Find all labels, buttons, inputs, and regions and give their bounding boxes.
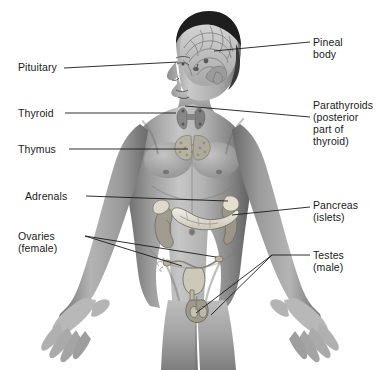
label-pancreas: Pancreas (islets)	[313, 199, 358, 223]
hand-right	[270, 298, 339, 362]
head	[167, 11, 241, 101]
ovary-right	[215, 256, 223, 262]
pineal-body-organ	[204, 59, 209, 64]
label-ovaries: Ovaries (female)	[18, 230, 57, 254]
label-thymus: Thymus	[18, 143, 56, 155]
label-adrenals: Adrenals	[25, 190, 67, 202]
label-testes: Testes (male)	[313, 249, 344, 273]
leader-pituitary	[64, 62, 178, 68]
endocrine-system-figure: Pituitary Pineal body Thyroid Parathyroi…	[0, 0, 388, 370]
pupil	[182, 63, 185, 66]
adrenal-gland-right	[223, 196, 239, 211]
pituitary-organ	[193, 67, 199, 71]
label-pineal-body: Pineal body	[313, 36, 343, 60]
label-parathyroids: Parathyroids (posterior part of thyroid)	[313, 99, 373, 147]
body-figure	[41, 11, 339, 370]
label-thyroid: Thyroid	[18, 107, 54, 119]
label-pituitary: Pituitary	[18, 61, 57, 73]
parathyroid-organ	[199, 123, 202, 126]
hand-left	[41, 298, 110, 362]
parathyroid-organ	[182, 110, 185, 113]
parathyroid-organ	[199, 110, 202, 113]
parathyroid-organ	[182, 123, 185, 126]
